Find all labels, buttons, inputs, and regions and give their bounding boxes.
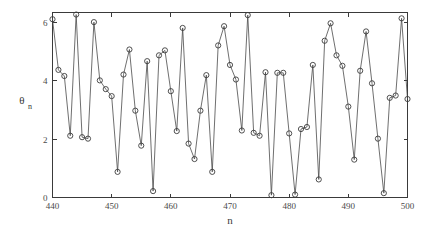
x-tick-label: 470 [223, 201, 237, 211]
theta-vs-n-plot: 440450460470480490500 0246 n θ n [0, 0, 431, 241]
x-tick-label: 440 [46, 201, 60, 211]
y-axis-title-subscript: n [28, 102, 32, 111]
axis-ticks [53, 13, 408, 198]
x-tick-label: 490 [342, 201, 356, 211]
x-tick-labels: 440450460470480490500 [46, 201, 415, 211]
series-markers [50, 12, 410, 198]
y-tick-label: 4 [43, 76, 48, 86]
y-tick-label: 6 [43, 18, 48, 28]
y-tick-label: 0 [43, 193, 48, 203]
x-tick-label: 460 [164, 201, 178, 211]
x-tick-label: 500 [401, 201, 415, 211]
y-axis-title: θ n [19, 94, 32, 111]
series-line [53, 15, 408, 196]
plot-frame [53, 13, 408, 198]
x-tick-label: 450 [105, 201, 119, 211]
chart-figure: 440450460470480490500 0246 n θ n [0, 0, 431, 241]
plot-border [53, 13, 408, 198]
y-axis-title-symbol: θ [19, 94, 24, 106]
x-tick-label: 480 [282, 201, 296, 211]
x-axis-title: n [227, 214, 233, 226]
data-series-theta [50, 12, 410, 198]
y-tick-labels: 0246 [43, 18, 48, 203]
y-tick-label: 2 [43, 135, 48, 145]
